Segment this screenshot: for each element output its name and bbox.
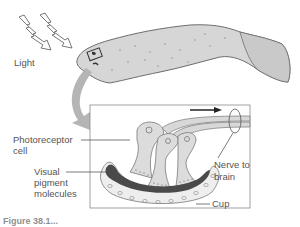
label-photoreceptor-line2: cell xyxy=(13,146,27,156)
label-photoreceptor: Photoreceptor xyxy=(13,135,73,145)
label-nerve-line2: brain xyxy=(214,172,235,182)
planarian-body xyxy=(77,25,290,83)
label-nerve: Nerve to xyxy=(214,160,250,170)
label-visual-pigment-line3: molecules xyxy=(34,189,77,199)
zoom-arrow xyxy=(72,68,92,130)
label-visual-pigment-line2: pigment xyxy=(34,178,68,188)
light-rays-icon xyxy=(19,13,72,50)
figure-caption: Figure 38.1... xyxy=(3,216,58,226)
label-visual-pigment: Visual xyxy=(34,167,60,177)
label-cup: Cup xyxy=(212,199,229,209)
label-light: Light xyxy=(14,58,35,68)
